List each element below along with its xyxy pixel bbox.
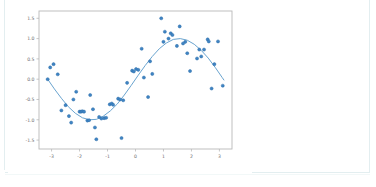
scatter-point — [137, 68, 140, 71]
x-axis-tick-label: 3 — [218, 154, 221, 159]
scatter-point — [95, 138, 98, 141]
scatter-point — [105, 116, 108, 119]
scatter-point — [60, 109, 63, 112]
scatter-point — [120, 136, 123, 139]
y-axis-tick-label: -1.5 — [26, 138, 35, 143]
y-axis-tick-label: -1.0 — [26, 118, 35, 123]
scatter-point — [210, 87, 213, 90]
x-axis-tick-label: 0 — [134, 154, 137, 159]
scatter-point — [198, 48, 201, 51]
scatter-point — [171, 33, 174, 36]
y-axis-tick-label: 1.0 — [27, 36, 34, 41]
scatter-point — [216, 40, 219, 43]
scatter-point — [207, 40, 210, 43]
x-axis-tick-label: 1 — [162, 154, 165, 159]
scatter-point — [93, 126, 96, 129]
y-axis-tick-label: 0.0 — [27, 77, 34, 82]
scatter-point — [151, 72, 154, 75]
scatter-point — [89, 93, 92, 96]
x-axis-tick-label: 2 — [190, 154, 193, 159]
scatter-point — [213, 63, 216, 66]
scatter-point — [200, 55, 203, 58]
x-axis-tick-label: -2 — [77, 154, 82, 159]
scatter-point — [75, 90, 78, 93]
scatter-point — [49, 66, 52, 69]
scatter-point — [160, 17, 163, 20]
scatter-point — [142, 76, 145, 79]
y-axis-tick-label: 0.5 — [27, 57, 34, 62]
scatter-point — [148, 60, 151, 63]
scatter-point — [162, 40, 165, 43]
scatter-point — [163, 30, 166, 33]
scatter-point — [52, 63, 55, 66]
screenshot-root: 1.51.00.50.0-0.5-1.0-1.5-3-2-10123 — [0, 0, 376, 187]
scatter-point — [70, 121, 73, 124]
scatter-point — [122, 99, 125, 102]
chart-figure: 1.51.00.50.0-0.5-1.0-1.5-3-2-10123 — [8, 2, 252, 174]
panel-border-left — [4, 0, 5, 170]
scatter-point — [126, 81, 129, 84]
y-axis-tick-label: 1.5 — [27, 16, 34, 21]
scatter-point — [119, 98, 122, 101]
scatter-point — [186, 52, 189, 55]
scatter-point — [178, 25, 181, 28]
x-axis-tick-label: -1 — [105, 154, 110, 159]
y-axis-tick-label: -0.5 — [26, 97, 35, 102]
panel-border-bottom-shadow — [5, 174, 370, 175]
scatter-point — [82, 110, 85, 113]
scatter-point — [175, 44, 178, 47]
scatter-chart: 1.51.00.50.0-0.5-1.0-1.5-3-2-10123 — [8, 2, 252, 174]
scatter-point — [112, 103, 115, 106]
scatter-point — [72, 98, 75, 101]
scatter-point — [46, 78, 49, 81]
scatter-point — [88, 119, 91, 122]
scatter-point — [221, 84, 224, 87]
scatter-point — [147, 96, 150, 99]
scatter-point — [167, 37, 170, 40]
scatter-point — [184, 40, 187, 43]
x-axis-tick-label: -3 — [49, 154, 54, 159]
scatter-point — [91, 108, 94, 111]
scatter-point — [195, 57, 198, 60]
scatter-point — [64, 104, 67, 107]
scatter-point — [67, 115, 70, 118]
scatter-point — [202, 48, 205, 51]
scatter-point — [188, 70, 191, 73]
scatter-point — [140, 47, 143, 50]
scatter-point — [56, 73, 59, 76]
panel-border-right — [369, 0, 370, 173]
